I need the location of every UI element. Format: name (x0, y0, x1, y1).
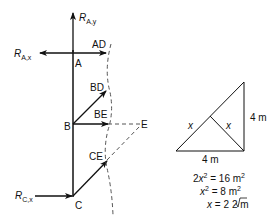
equation-2: x2 = 8 m2 (199, 185, 241, 197)
label-leg-right: x (225, 120, 232, 131)
section-cut-line (105, 44, 113, 215)
label-side-vertical: 4 m (250, 112, 267, 123)
label-r-ay: RA,y (79, 12, 97, 26)
force-ce-arrow (73, 161, 107, 196)
label-r-ax: RA,x (14, 48, 32, 61)
node-label-b: B (64, 121, 71, 132)
label-side-horizontal: 4 m (202, 154, 219, 165)
label-bd: BD (90, 82, 104, 93)
node-label-e: E (141, 119, 148, 130)
equation-3: x = 22 m (206, 199, 249, 210)
equation-1: 2x2 = 16 m2 (193, 172, 245, 184)
node-label-c: C (75, 200, 82, 211)
truss-section-diagram: RA,y RA,x RC,x A B C E AD BD BE CE x x 4… (0, 0, 274, 221)
label-ce: CE (89, 151, 103, 162)
label-leg-left: x (187, 120, 194, 131)
node-label-a: A (75, 58, 82, 69)
label-r-cx: RC,x (15, 190, 33, 203)
label-ad: AD (92, 39, 106, 50)
geometry-triangle (176, 82, 244, 151)
label-be: BE (94, 109, 108, 120)
dashed-ce-to-e (107, 126, 140, 160)
